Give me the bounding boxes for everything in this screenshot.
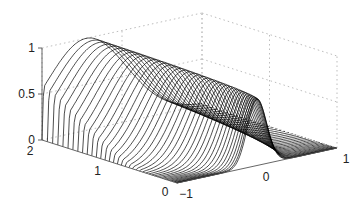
curve	[149, 82, 309, 174]
curve-family	[42, 38, 337, 183]
t-tick-label: 2	[27, 144, 34, 158]
x-tick-label: −1	[179, 187, 193, 201]
z-tick-label: 1	[28, 41, 35, 55]
curve	[155, 85, 315, 176]
t-tick-label: 0	[162, 185, 169, 199]
z-tick-label: 0.5	[18, 87, 35, 101]
3d-line-plot: 00.51012−101	[0, 0, 364, 211]
x-tick-label: 0	[263, 170, 270, 184]
x-tick-label: 1	[343, 152, 350, 166]
t-tick-label: 1	[94, 164, 101, 178]
